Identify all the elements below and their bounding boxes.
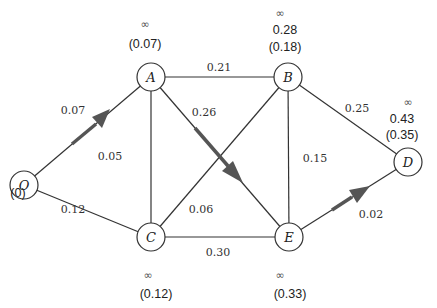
dist-D-inf: ∞ [403, 96, 412, 109]
graph-diagram: O A B C E D 0.07 0.12 0.21 0.05 0.26 0.0… [0, 0, 437, 308]
node-label-A: A [145, 70, 155, 85]
dist-E-inf: ∞ [275, 269, 284, 282]
node-D: D [394, 148, 422, 176]
node-A: A [137, 63, 165, 91]
node-C: C [137, 223, 165, 251]
edge-B-E [288, 77, 289, 237]
dist-C-inf: ∞ [143, 269, 152, 282]
dist-B-final: (0.18) [269, 40, 302, 54]
weight-B-C: 0.06 [189, 203, 214, 216]
node-label-D: D [402, 155, 414, 170]
arrow-A-E-icon [195, 128, 243, 183]
arrow-E-D-icon [332, 186, 370, 210]
nodes: O A B C E D [10, 63, 422, 251]
dist-A-final: (0.07) [129, 37, 162, 51]
dist-O-final: (0) [10, 186, 25, 200]
weight-A-E: 0.26 [192, 106, 217, 119]
node-label-C: C [146, 230, 156, 245]
dist-D-value: 0.43 [390, 112, 414, 126]
dist-E-final: (0.33) [274, 287, 307, 301]
dist-D-final: (0.35) [386, 128, 419, 142]
weight-O-C: 0.12 [61, 203, 86, 216]
weight-E-D: 0.02 [359, 208, 384, 221]
dist-A-inf: ∞ [140, 18, 149, 31]
dist-B-inf: ∞ [275, 7, 284, 20]
node-E: E [275, 223, 303, 251]
node-B: B [274, 63, 302, 91]
node-label-B: B [282, 70, 293, 85]
weight-B-E: 0.15 [303, 152, 328, 165]
dist-C-final: (0.12) [140, 287, 173, 301]
weight-O-A: 0.07 [61, 104, 86, 117]
graph-canvas: O A B C E D 0.07 0.12 0.21 0.05 0.26 0.0… [0, 0, 437, 308]
dist-B-value: 0.28 [273, 23, 297, 37]
weight-C-E: 0.30 [206, 246, 231, 259]
node-label-E: E [283, 230, 294, 245]
edge-O-C [24, 185, 151, 237]
weight-A-B: 0.21 [207, 61, 232, 74]
weight-B-D: 0.25 [345, 102, 370, 115]
weight-A-C: 0.05 [98, 150, 123, 163]
